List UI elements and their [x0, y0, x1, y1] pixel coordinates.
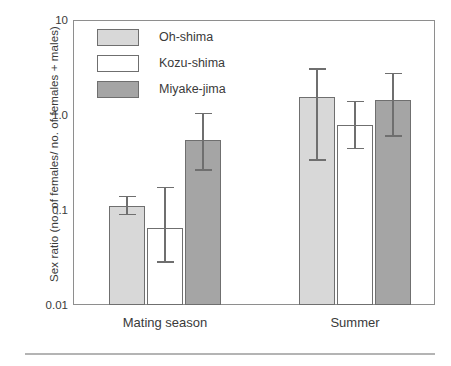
error-bar-oh-shima-mating-season — [109, 196, 145, 215]
y-tick-label-1: 1.0 — [52, 109, 68, 121]
error-bar-oh-shima-summer — [299, 68, 335, 160]
x-tick-label-summer: Summer — [330, 315, 379, 330]
legend-swatch-kozu-shima — [97, 55, 139, 72]
error-bar-stem — [392, 73, 393, 137]
legend-swatch-miyake-jima — [97, 81, 139, 98]
legend-item-miyake-jima: Miyake-jima — [97, 76, 277, 102]
bottom-divider — [25, 353, 435, 355]
error-bar-cap-bottom — [309, 159, 326, 160]
error-bar-miyake-jima-summer — [375, 73, 411, 137]
error-bar-cap-bottom — [347, 148, 364, 149]
y-axis-tick-labels: 10 1.0 0.1 0.01 — [24, 0, 68, 366]
error-bar-kozu-shima-mating-season — [147, 187, 183, 263]
error-bar-stem — [316, 68, 317, 160]
error-bar-cap-bottom — [385, 135, 402, 136]
error-bar-kozu-shima-summer — [337, 101, 373, 149]
legend-item-oh-shima: Oh-shima — [97, 24, 277, 50]
error-bar-miyake-jima-mating-season — [185, 113, 221, 171]
legend-swatch-oh-shima — [97, 29, 139, 46]
legend-label-kozu-shima: Kozu-shima — [159, 56, 225, 70]
legend-label-miyake-jima: Miyake-jima — [159, 82, 226, 96]
legend: Oh-shima Kozu-shima Miyake-jima — [97, 24, 277, 102]
legend-label-oh-shima: Oh-shima — [159, 30, 213, 44]
error-bar-cap-bottom — [119, 214, 136, 215]
figure-bar-chart-sex-ratio: Sex ratio (no. of females/ no. of female… — [0, 0, 451, 366]
y-tick-label-10: 10 — [55, 14, 68, 26]
y-tick-label-0.01: 0.01 — [46, 299, 68, 311]
error-bar-stem — [126, 196, 127, 215]
error-bar-stem — [202, 113, 203, 171]
bar-kozu-shima-summer — [337, 125, 373, 305]
x-tick-label-mating-season: Mating season — [123, 315, 208, 330]
error-bar-cap-bottom — [195, 169, 212, 170]
bar-oh-shima-mating-season — [109, 206, 145, 305]
error-bar-stem — [354, 101, 355, 149]
error-bar-cap-bottom — [157, 261, 174, 262]
error-bar-stem — [164, 187, 165, 263]
legend-item-kozu-shima: Kozu-shima — [97, 50, 277, 76]
y-tick-label-0.1: 0.1 — [52, 204, 68, 216]
